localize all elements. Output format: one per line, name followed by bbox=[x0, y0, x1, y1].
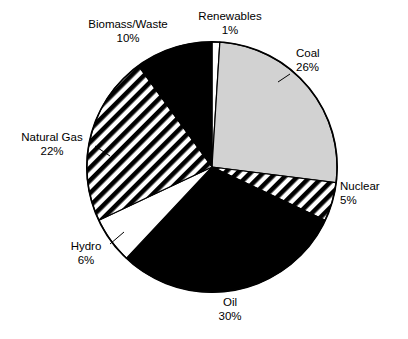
slice-label-biomass-waste-value: 10% bbox=[74, 32, 182, 46]
slice-label-coal-name: Coal bbox=[296, 47, 320, 59]
slice-label-oil-value: 30% bbox=[192, 310, 268, 324]
slice-label-nuclear: Nuclear 5% bbox=[340, 180, 406, 207]
slice-label-hydro: Hydro 6% bbox=[54, 240, 118, 267]
slice-label-hydro-name: Hydro bbox=[71, 240, 102, 252]
slice-label-natural-gas-value: 22% bbox=[4, 145, 100, 159]
slice-label-renewables: Renewables 1% bbox=[182, 10, 278, 37]
slice-label-oil: Oil 30% bbox=[192, 296, 268, 323]
slice-label-biomass-waste-name: Biomass/Waste bbox=[88, 18, 167, 30]
slice-label-nuclear-name: Nuclear bbox=[340, 180, 380, 192]
slice-label-hydro-value: 6% bbox=[54, 254, 118, 268]
slice-label-natural-gas: Natural Gas 22% bbox=[4, 131, 100, 158]
slice-label-coal-value: 26% bbox=[296, 61, 356, 75]
slice-label-biomass-waste: Biomass/Waste 10% bbox=[74, 18, 182, 45]
slice-label-natural-gas-name: Natural Gas bbox=[21, 131, 82, 143]
slice-label-renewables-value: 1% bbox=[182, 24, 278, 38]
slice-label-nuclear-value: 5% bbox=[340, 194, 406, 208]
pie-slices bbox=[87, 42, 337, 292]
pie-chart-figure: Biomass/Waste 10% Renewables 1% Coal 26%… bbox=[0, 0, 408, 339]
slice-label-renewables-name: Renewables bbox=[198, 10, 261, 22]
slice-label-coal: Coal 26% bbox=[296, 47, 356, 74]
slice-label-oil-name: Oil bbox=[223, 296, 237, 308]
